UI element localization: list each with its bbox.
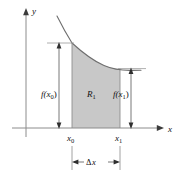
- y-axis-arrowhead: [23, 8, 29, 15]
- x-axis-arrowhead: [157, 125, 164, 131]
- shaded-region-r1: [72, 43, 120, 128]
- x-axis-label: x: [167, 124, 172, 134]
- f-x0-label: f(x0): [41, 89, 57, 100]
- riemann-region-figure: y x f(x0) f(x1) R1 x0: [0, 0, 186, 178]
- delta-arrowhead-left: [72, 160, 78, 165]
- x0-tick-label: x0: [66, 133, 74, 144]
- f-x1-label: f(x1): [113, 89, 129, 100]
- x1-tick-label: x1: [114, 133, 122, 144]
- delta-arrowhead-right: [114, 160, 120, 165]
- figure-container: y x f(x0) f(x1) R1 x0: [0, 0, 186, 178]
- delta-x-label: Δx: [86, 157, 96, 167]
- y-axis-label: y: [31, 6, 36, 16]
